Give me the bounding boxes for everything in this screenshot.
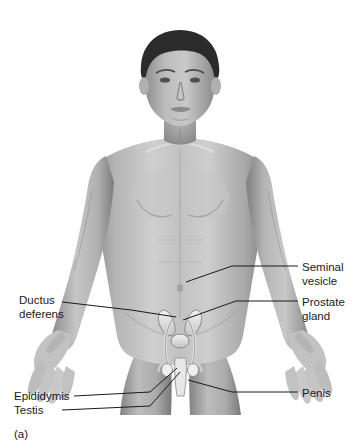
- right-ear: [211, 77, 221, 95]
- left-ear: [139, 77, 149, 95]
- right-eye: [190, 77, 200, 82]
- label-epididymis: Epididymis: [14, 390, 70, 404]
- penis-shaft: [175, 358, 187, 396]
- left-eye: [160, 77, 170, 82]
- label-ductus-deferens: Ductus deferens: [19, 294, 64, 321]
- prostate: [171, 334, 189, 348]
- label-testis: Testis: [14, 404, 43, 418]
- male-anatomy-illustration: [0, 0, 361, 447]
- anatomy-figure: Ductus deferens Epididymis Testis Semina…: [0, 0, 361, 447]
- label-prostate-gland: Prostate gland: [302, 296, 345, 323]
- label-seminal-vesicle: Seminal vesicle: [302, 261, 344, 288]
- figure-caption: (a): [14, 428, 28, 440]
- testes: [162, 364, 173, 377]
- navel: [177, 284, 183, 292]
- testis-right: [188, 364, 199, 377]
- label-penis: Penis: [302, 387, 331, 401]
